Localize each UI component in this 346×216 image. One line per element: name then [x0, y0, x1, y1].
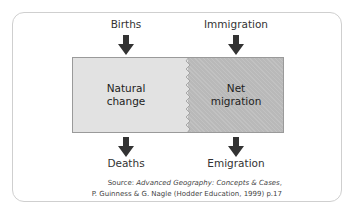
natural-change-text: Natural change [107, 82, 146, 108]
zigzag-divider [183, 57, 195, 133]
source-title: Advanced Geography: Concepts & Cases [136, 179, 279, 187]
births-arrow-icon [118, 35, 134, 55]
source-prefix: Source: [108, 179, 137, 187]
immigration-arrow-icon [228, 35, 244, 55]
immigration-label: Immigration [204, 18, 268, 30]
source-citation: Source: Advanced Geography: Concepts & C… [92, 178, 282, 200]
source-suffix: , [280, 179, 282, 187]
source-line2: P. Guinness & G. Nagle (Hodder Education… [92, 189, 282, 200]
natural-change-line2: change [107, 95, 146, 108]
deaths-arrow-icon [118, 137, 134, 157]
births-label: Births [111, 18, 142, 30]
natural-change-line1: Natural [107, 82, 146, 95]
net-migration-line2: migration [211, 95, 262, 108]
emigration-arrow-icon [228, 137, 244, 157]
deaths-label: Deaths [107, 157, 144, 169]
emigration-label: Emigration [207, 157, 264, 169]
net-migration-text: Net migration [211, 82, 262, 108]
net-migration-line1: Net [211, 82, 262, 95]
